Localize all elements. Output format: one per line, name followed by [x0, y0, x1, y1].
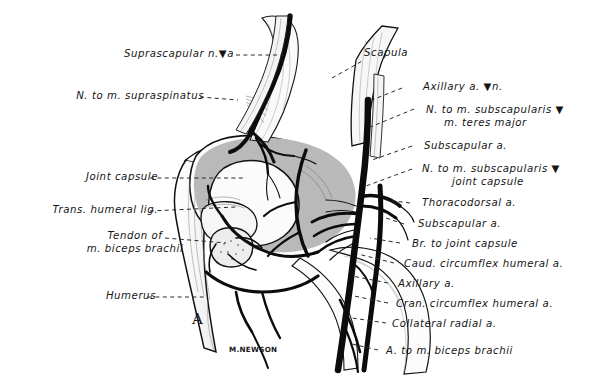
- label-subscapular-a-2: Subscapular a.: [418, 218, 501, 231]
- leader-n-to-m-supraspinatus: [200, 97, 238, 100]
- label-n-subscap-capsule-line1: N. to m. subscapularis ▼: [422, 163, 560, 174]
- label-n-to-m-subscapularis-teres-major: N. to m. subscapularis ▼ m. teres major: [426, 104, 564, 129]
- label-cran-circumflex-humeral-a: Cran. circumflex humeral a.: [396, 298, 553, 311]
- leader-axillary-a: [352, 276, 388, 283]
- label-tendon-line1: Tendon of: [108, 230, 163, 241]
- label-humerus: Humerus: [106, 290, 156, 303]
- leader-br-joint-capsule: [370, 238, 400, 243]
- anatomical-illustration-figure: Suprascapular n.▼a N. to m. supraspinatu…: [0, 0, 608, 382]
- label-n-subscap-teres-line1: N. to m. subscapularis ▼: [426, 104, 564, 115]
- label-thoracodorsal-a: Thoracodorsal a.: [422, 197, 516, 210]
- label-br-to-joint-capsule: Br. to joint capsule: [412, 238, 518, 251]
- label-n-to-m-subscapularis-joint-capsule: N. to m. subscapularis ▼ joint capsule: [422, 163, 560, 188]
- label-axillary-a: Axillary a.: [398, 278, 455, 291]
- label-collateral-radial-a: Collateral radial a.: [392, 318, 497, 331]
- label-n-to-m-supraspinatus: N. to m. supraspinatus: [76, 90, 204, 103]
- label-n-subscap-teres-line2: m. teres major: [426, 117, 527, 130]
- label-tendon-of-m-biceps-brachii: Tendon of m. biceps brachii: [30, 230, 240, 255]
- artist-signature: M.NEWSON: [229, 345, 277, 354]
- label-joint-capsule: Joint capsule: [86, 171, 158, 184]
- label-subscapular-a-1: Subscapular a.: [424, 140, 507, 153]
- label-tendon-line2: m. biceps brachii: [87, 243, 184, 254]
- label-a-to-m-biceps-brachii: A. to m. biceps brachii: [386, 345, 513, 358]
- label-n-subscap-capsule-line2: joint capsule: [422, 176, 524, 189]
- panel-letter: A: [192, 310, 203, 328]
- label-scapula: Scapula: [364, 47, 408, 60]
- anastomotic-arcade: [206, 272, 318, 292]
- label-trans-humeral-lig: Trans. humeral lig.: [52, 204, 158, 217]
- label-caud-circumflex-humeral-a: Caud. circumflex humeral a.: [404, 258, 563, 271]
- leader-n-subscapularis-capsule: [366, 169, 412, 186]
- shoulder-vasculature-drawing: [0, 0, 608, 382]
- label-suprascapular-n-a: Suprascapular n.▼a: [124, 48, 234, 61]
- label-axillary-a-n: Axillary a. ▼n.: [423, 81, 503, 94]
